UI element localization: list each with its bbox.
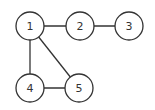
node-label: 2 [77, 20, 84, 33]
node-label: 5 [76, 82, 83, 95]
nodes: 12345 [16, 12, 143, 102]
graph-diagram: 12345 [0, 0, 155, 110]
node-label: 1 [27, 20, 34, 33]
node-4: 4 [16, 74, 44, 102]
node-label: 3 [126, 20, 133, 33]
node-1: 1 [16, 12, 44, 40]
node-3: 3 [115, 12, 143, 40]
node-5: 5 [65, 74, 93, 102]
node-label: 4 [27, 82, 34, 95]
node-2: 2 [66, 12, 94, 40]
